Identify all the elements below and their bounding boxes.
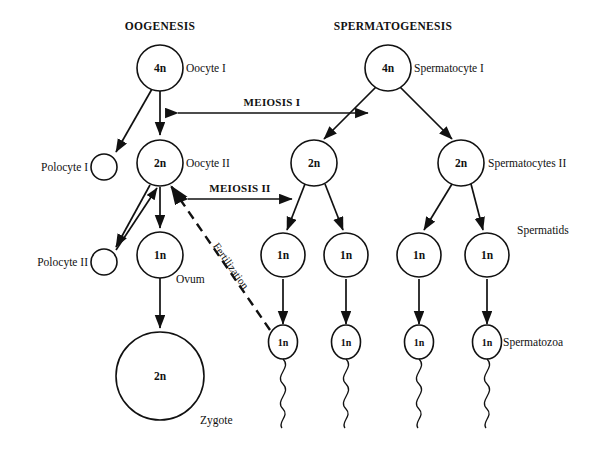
ploidy-spermatid-2: 1n (340, 249, 353, 261)
label-spermatozoa: Spermatozoa (503, 336, 563, 349)
tail-spermatozoon-4 (484, 359, 489, 428)
ploidy-spermatozoon-4: 1n (482, 337, 493, 348)
ploidy-spermatid-4: 1n (481, 249, 494, 261)
ploidy-spermatid-3: 1n (413, 249, 426, 261)
label-zygote: Zygote (200, 414, 233, 427)
diagram-canvas: OOGENESIS SPERMATOGENESIS MEIOSIS I MEIO… (0, 0, 606, 449)
label-polocyte-2: Polocyte II (37, 256, 88, 269)
label-spermatids: Spermatids (517, 224, 569, 237)
arrow-sp1-to-sp2b (400, 87, 452, 139)
label-oocyte-2: Oocyte II (186, 157, 230, 170)
cell-polocyte-2 (91, 249, 117, 275)
arrow-oocyte1-to-polocyte1 (116, 89, 152, 152)
arrow-sp2a-to-spermatid2 (325, 184, 343, 230)
ploidy-spermatocyte-2b: 2n (455, 157, 468, 169)
label-spermatocyte-1: Spermatocyte I (414, 62, 484, 75)
ploidy-spermatozoon-1: 1n (278, 337, 289, 348)
arrow-sp2b-to-spermatid3 (424, 184, 452, 230)
tail-spermatozoon-2 (343, 359, 348, 428)
label-spermatocytes-2: Spermatocytes II (488, 157, 566, 170)
tail-spermatozoon-3 (416, 359, 421, 428)
label-oocyte-1: Oocyte I (186, 62, 226, 75)
ploidy-oocyte-1: 4n (154, 62, 167, 74)
ploidy-ovum: 1n (154, 249, 167, 261)
arrow-sp2a-to-spermatid1 (287, 184, 305, 230)
ploidy-spermatocyte-1: 4n (382, 62, 395, 74)
label-meiosis-2: MEIOSIS II (209, 182, 270, 194)
heading-oogenesis: OOGENESIS (125, 20, 195, 32)
label-ovum: Ovum (176, 273, 205, 285)
ploidy-spermatozoon-3: 1n (414, 337, 425, 348)
ploidy-spermatocyte-2a: 2n (308, 157, 321, 169)
meiosis-diagram-svg: OOGENESIS SPERMATOGENESIS MEIOSIS I MEIO… (0, 0, 606, 449)
ploidy-spermatozoon-2: 1n (341, 337, 352, 348)
tail-spermatozoon-1 (280, 359, 285, 428)
cell-polocyte-1 (91, 154, 117, 180)
ploidy-spermatid-1: 1n (277, 249, 290, 261)
heading-spermatogenesis: SPERMATOGENESIS (334, 20, 452, 32)
label-meiosis-1: MEIOSIS I (244, 96, 301, 108)
arrow-sp2b-to-spermatid4 (471, 184, 483, 230)
ploidy-zygote: 2n (154, 370, 167, 382)
ploidy-oocyte-2: 2n (154, 157, 167, 169)
label-fertilization: Fertilization (211, 240, 252, 291)
label-polocyte-1: Polocyte I (41, 161, 88, 174)
